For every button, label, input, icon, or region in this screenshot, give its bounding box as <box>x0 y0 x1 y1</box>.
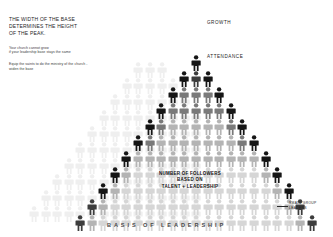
ghost-figure <box>87 158 97 174</box>
ghost-figure <box>52 190 62 206</box>
person-figure <box>203 135 213 151</box>
person-figure <box>98 199 108 215</box>
person-figure <box>168 103 178 119</box>
person-figure <box>249 167 259 183</box>
slide-canvas: THE WIDTH OF THE BASE DETERMINES THE HEI… <box>0 0 333 237</box>
person-figure <box>214 135 224 151</box>
ghost-figure <box>110 110 120 126</box>
person-figure <box>272 199 282 215</box>
person-figure <box>179 87 189 103</box>
person-figure <box>133 151 143 167</box>
person-figure <box>179 199 189 215</box>
label-attendance: ATTENDANCE <box>207 54 243 59</box>
ghost-figure <box>110 126 120 142</box>
person-figure <box>191 151 201 167</box>
person-figure <box>191 103 201 119</box>
ghost-figure <box>99 110 109 126</box>
person-figure <box>121 199 131 215</box>
label-basis-of-leadership: BASIS OF LEADERSHIP <box>0 222 333 228</box>
person-figure <box>191 119 201 135</box>
ghost-figure <box>52 206 62 222</box>
headline-line-2: DETERMINES THE HEIGHT <box>9 23 127 30</box>
person-figure <box>156 119 166 135</box>
ghost-figure <box>133 78 143 94</box>
person-figure <box>237 119 247 135</box>
person-figure <box>145 135 155 151</box>
ghost-figure <box>64 174 74 190</box>
person-figure <box>237 151 247 167</box>
ghost-figure <box>122 94 132 110</box>
ghost-figure <box>64 206 74 222</box>
person-figure <box>203 103 213 119</box>
person-figure <box>191 199 201 215</box>
ghost-figure <box>87 126 97 142</box>
person-figure <box>261 151 271 167</box>
ghost-figure <box>110 142 120 158</box>
person-figure <box>226 103 236 119</box>
person-figure <box>237 183 247 199</box>
person-figure <box>168 151 178 167</box>
person-figure <box>110 167 120 183</box>
person-figure <box>214 87 224 103</box>
person-figure <box>214 199 224 215</box>
ghost-figure <box>41 206 51 222</box>
ghost-figure <box>87 174 97 190</box>
person-figure <box>191 55 201 71</box>
person-figure <box>98 183 108 199</box>
person-figure <box>237 135 247 151</box>
person-figure <box>179 71 189 87</box>
person-figure <box>261 199 271 215</box>
person-figure <box>156 199 166 215</box>
person-figure <box>179 119 189 135</box>
ghost-figure <box>145 62 155 78</box>
person-figure <box>203 151 213 167</box>
person-figure <box>168 199 178 215</box>
person-figure <box>226 151 236 167</box>
person-figure <box>226 135 236 151</box>
headline-line-3: OF THE PEAK. <box>9 30 127 37</box>
ghost-figure <box>41 190 51 206</box>
person-figure <box>261 183 271 199</box>
person-figure <box>121 151 131 167</box>
person-figure <box>87 199 97 215</box>
person-figure <box>156 135 166 151</box>
small-group-leader-line <box>277 206 288 207</box>
ghost-figure <box>64 190 74 206</box>
person-figure <box>156 103 166 119</box>
person-figure <box>214 119 224 135</box>
label-number-of-followers: NUMBER OF FOLLOWERS BASED ON TALENT + LE… <box>146 171 234 190</box>
person-figure <box>203 119 213 135</box>
ghost-figure <box>157 78 167 94</box>
person-figure <box>214 103 224 119</box>
person-figure <box>156 151 166 167</box>
person-figure <box>168 119 178 135</box>
person-figure <box>203 87 213 103</box>
paragraph-1-line-2: if your leadership base stays the same <box>9 50 127 55</box>
paragraph-2-line-2: widen the base <box>9 67 127 72</box>
label-growth: GROWTH <box>207 20 231 25</box>
small-group-line-1: SMALL GROUP <box>289 201 317 206</box>
person-figure <box>249 183 259 199</box>
ghost-figure <box>99 142 109 158</box>
label-center-line-3: TALENT + LEADERSHIP <box>146 184 234 190</box>
person-figure <box>226 119 236 135</box>
person-figure <box>249 135 259 151</box>
ghost-figure <box>29 206 39 222</box>
ghost-figure <box>122 126 132 142</box>
person-figure <box>237 199 247 215</box>
ghost-figure <box>122 78 132 94</box>
ghost-figure <box>133 62 143 78</box>
person-figure <box>133 199 143 215</box>
person-figure <box>249 151 259 167</box>
ghost-figure <box>99 158 109 174</box>
ghost-figure <box>133 110 143 126</box>
text-block: THE WIDTH OF THE BASE DETERMINES THE HEI… <box>9 16 127 72</box>
person-figure <box>191 87 201 103</box>
person-figure <box>191 135 201 151</box>
ghost-figure <box>75 142 85 158</box>
person-figure <box>133 167 143 183</box>
person-figure <box>110 199 120 215</box>
person-figure <box>226 199 236 215</box>
ghost-figure <box>133 94 143 110</box>
person-figure <box>168 135 178 151</box>
